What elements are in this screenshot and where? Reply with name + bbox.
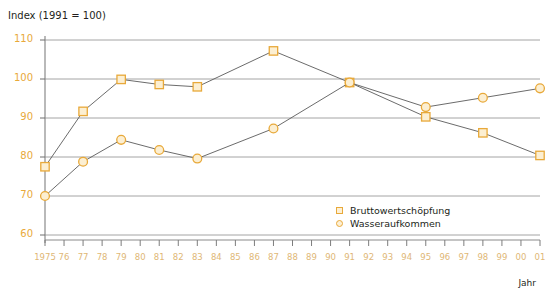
series-line [45,51,540,167]
legend-label: Bruttowertschöpfung [350,205,450,216]
data-point-marker [117,135,126,144]
y-axis-ticks [40,40,45,235]
legend-item-bruttowertschoepfung[interactable]: Bruttowertschöpfung [336,204,450,217]
legend-label: Wasseraufkommen [350,218,441,229]
data-point-marker [155,80,163,88]
series-bruttowertschoepfung [41,47,544,171]
legend-marker-circle-icon [336,220,343,227]
data-point-marker [478,93,487,102]
x-axis-ticks [45,240,540,246]
data-point-marker [345,78,354,87]
data-point-marker [421,103,430,112]
data-point-marker [155,146,164,155]
data-point-marker [117,75,125,83]
data-series-layer [41,47,545,201]
data-point-marker [193,154,202,163]
data-point-marker [479,129,487,137]
data-point-marker [41,192,50,201]
data-point-marker [536,151,544,159]
x-axis-label: Jahr [518,278,536,288]
legend-marker-square-icon [336,207,343,214]
data-point-marker [536,84,545,93]
legend-item-wasseraufkommen[interactable]: Wasseraufkommen [336,217,450,230]
data-point-marker [193,83,201,91]
series-wasseraufkommen [41,78,545,200]
data-point-marker [269,124,278,133]
data-point-marker [269,47,277,55]
data-point-marker [79,107,87,115]
plot-area [0,0,546,304]
data-point-marker [422,113,430,121]
data-point-marker [79,157,88,166]
chart-legend: Bruttowertschöpfung Wasseraufkommen [336,204,450,230]
chart-container: Index (1991 = 100) 60708090100110 197576… [0,0,546,304]
data-point-marker [41,163,49,171]
